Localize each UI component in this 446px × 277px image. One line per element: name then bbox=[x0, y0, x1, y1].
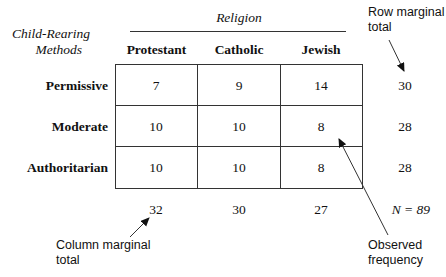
arrows-icon bbox=[0, 0, 446, 277]
